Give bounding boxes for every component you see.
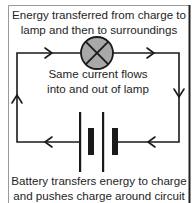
label-line: Energy transferred from charge to xyxy=(10,7,188,22)
lamp-icon xyxy=(81,37,113,69)
battery-label: Battery transfers energy to charge and p… xyxy=(10,173,188,203)
lamp-energy-label: Energy transferred from charge to lamp a… xyxy=(10,7,188,37)
label-line: Battery transfers energy to charge xyxy=(10,173,188,188)
label-line: lamp and then to surroundings xyxy=(10,22,188,37)
label-line: and pushes charge around circuit xyxy=(10,188,188,203)
current-label: Same current flows into and out of lamp xyxy=(40,66,156,96)
battery-icon xyxy=(79,112,118,172)
label-line: into and out of lamp xyxy=(40,81,156,96)
label-line: Same current flows xyxy=(40,66,156,81)
